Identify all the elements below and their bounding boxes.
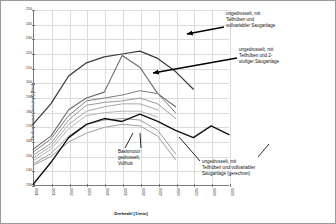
annotation-leader-line	[258, 144, 269, 157]
annotation-leader-line	[140, 133, 141, 148]
chart-figure: Drehmoment (reduziert) [Nm] Drehzahl [1/…	[0, 0, 336, 224]
annotation-arrows	[1, 1, 336, 224]
annotation-gerechnet: ungedrosselt, mit Teilhüben und vollvari…	[202, 159, 332, 177]
annotation-leader-line	[187, 27, 224, 34]
annotation-2stufig: ungedrosselt, mit Teilhüben und 2- stufi…	[239, 47, 335, 65]
annotation-basismotor: Basismotor gedrosselt, Vollhub	[118, 149, 164, 167]
annotation-leader-line	[125, 133, 133, 148]
annotation-leader-line	[179, 137, 200, 161]
annotation-vollvariabel: ungedrosselt, mit Teilhüben und vollvari…	[226, 11, 331, 29]
annotation-leader-line	[153, 58, 237, 73]
